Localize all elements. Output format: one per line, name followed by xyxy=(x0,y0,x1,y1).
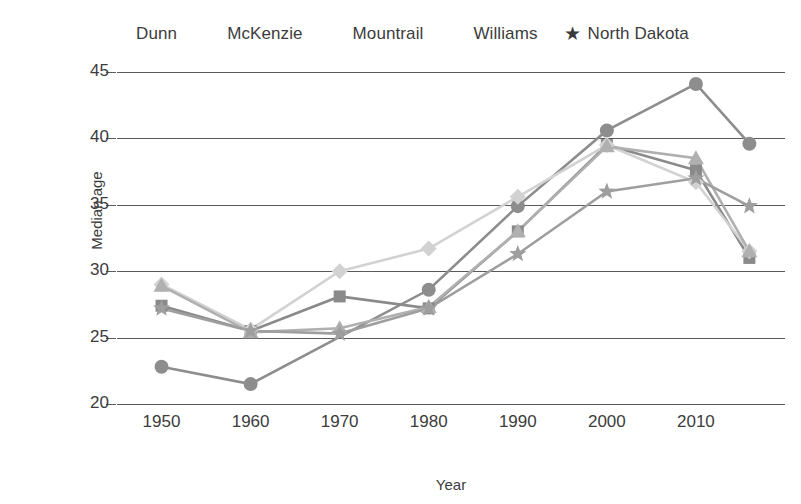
data-point-marker xyxy=(741,197,758,213)
legend-item-mckenzie[interactable]: McKenzie xyxy=(203,24,302,44)
y-tick-label: 45 xyxy=(0,61,109,81)
plot-area: 202530354045 195019601970198019902000201… xyxy=(117,72,785,404)
x-tick-label: 1950 xyxy=(122,412,202,432)
x-tick-label: 2010 xyxy=(656,412,736,432)
star-marker-icon: ★ xyxy=(564,26,580,42)
x-tick-label: 1960 xyxy=(211,412,291,432)
y-tick-label: 25 xyxy=(0,327,109,347)
square-marker-icon xyxy=(203,26,219,42)
data-point-marker xyxy=(334,290,346,302)
legend-label: Williams xyxy=(473,24,537,44)
gridline xyxy=(117,404,785,405)
data-point-marker xyxy=(421,241,437,257)
x-tick-label: 2000 xyxy=(567,412,647,432)
data-point-marker xyxy=(600,123,614,137)
legend-item-mountrail[interactable]: Mountrail xyxy=(329,24,424,44)
x-tick-label: 1980 xyxy=(389,412,469,432)
legend-label: Dunn xyxy=(136,24,177,44)
data-point-marker xyxy=(155,360,169,374)
data-point-marker xyxy=(244,377,258,391)
legend-label: McKenzie xyxy=(227,24,302,44)
series-line-mountrail xyxy=(162,145,750,330)
data-point-marker xyxy=(742,137,756,151)
data-point-marker xyxy=(689,77,703,91)
x-tick-label: 1970 xyxy=(300,412,380,432)
series-line-williams xyxy=(162,146,750,332)
legend-item-dunn[interactable]: Dunn xyxy=(112,24,177,44)
legend-label: North Dakota xyxy=(588,24,689,44)
data-point-marker xyxy=(422,283,436,297)
y-axis-title: Median age xyxy=(88,136,105,286)
series-line-north-dakota xyxy=(162,178,750,333)
legend-item-williams[interactable]: Williams xyxy=(449,24,537,44)
circle-marker-icon xyxy=(112,26,128,42)
series-line-mckenzie xyxy=(162,145,750,331)
x-tick-label: 1990 xyxy=(478,412,558,432)
x-axis-title: Year xyxy=(117,476,785,493)
legend-item-north-dakota[interactable]: ★ North Dakota xyxy=(564,24,689,44)
y-tick-label: 20 xyxy=(0,393,109,413)
legend-label: Mountrail xyxy=(353,24,424,44)
data-point-marker xyxy=(332,263,348,279)
chart-legend: Dunn McKenzie Mountrail Williams ★ North… xyxy=(0,18,801,50)
series-layer xyxy=(117,72,785,404)
line-chart-figure: Dunn McKenzie Mountrail Williams ★ North… xyxy=(0,0,801,504)
diamond-marker-icon xyxy=(328,25,346,43)
